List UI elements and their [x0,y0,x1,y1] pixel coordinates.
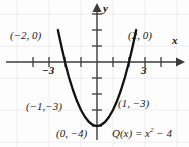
annotation-point-left: (−1,−3) [26,101,62,112]
x-axis-label: x [172,35,178,46]
equation-tail: − 4 [153,127,171,139]
x-tick-label-neg3: −3 [42,65,54,76]
plot-area [0,0,189,147]
x-tick-label-3: 3 [141,65,147,76]
y-axis-label: y [103,3,108,14]
function-equation-label: Q(x) = x2 − 4 [112,128,172,139]
annotation-x-intercept-left: (−2, 0) [10,30,41,41]
annotation-point-right: (1, −3) [118,98,149,109]
annotation-x-intercept-right: (2, 0) [128,30,152,41]
parabola-graph-figure: (−2, 0) (2, 0) (−1,−3) (1, −3) (0, −4) −… [0,0,189,147]
annotation-vertex: (0, −4) [56,128,87,139]
equation-head: Q(x) = x [112,127,150,139]
y-axis-arrowhead [93,3,102,12]
x-axis-arrowhead [176,58,185,67]
